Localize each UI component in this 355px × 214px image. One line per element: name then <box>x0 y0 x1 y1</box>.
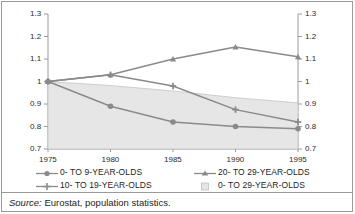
y-tick-right-5: 0.8 <box>305 122 316 131</box>
legend-item-10-to-19[interactable]: 10- TO 19-YEAR-OLDS <box>34 179 152 192</box>
legend-column-right: 20- TO 29-YEAR-OLDS 0- TO 29-YEAR-OLDS <box>192 166 310 192</box>
y-tick-left-4: 0.9 <box>30 99 41 108</box>
legend-marker-triangle-icon <box>192 166 218 179</box>
chart-legend: 0- TO 9-YEAR-OLDS 10- TO 19-YEAR-OLDS <box>6 166 348 192</box>
legend-marker-cross-icon <box>34 179 60 192</box>
source-note: Source: Eurostat, population statistics. <box>2 192 352 212</box>
legend-item-0-to-9[interactable]: 0- TO 9-YEAR-OLDS <box>34 166 152 179</box>
y-tick-right-4: 0.9 <box>305 99 316 108</box>
legend-label-0-to-9: 0- TO 9-YEAR-OLDS <box>60 166 142 179</box>
y-tick-left-1: 1.2 <box>30 32 41 41</box>
y-tick-right-2: 1.1 <box>305 54 316 63</box>
source-text-line: Source: Eurostat, population statistics. <box>9 197 171 208</box>
plot-area: 1.31.21.110.90.80.7 1.31.21.110.90.80.7 … <box>6 4 348 164</box>
y-tick-right-0: 1.3 <box>305 9 316 18</box>
y-tick-left-5: 0.8 <box>30 122 41 131</box>
x-tick-2: 1985 <box>164 155 182 164</box>
legend-item-0-to-29[interactable]: 0- TO 29-YEAR-OLDS <box>192 179 310 192</box>
y-tick-right-3: 1 <box>305 77 309 86</box>
x-tick-1: 1980 <box>102 155 120 164</box>
source-keyword: Source: <box>9 197 42 208</box>
legend-label-20-to-29: 20- TO 29-YEAR-OLDS <box>218 166 310 179</box>
y-tick-right-1: 1.2 <box>305 32 316 41</box>
x-tick-4: 1995 <box>289 155 307 164</box>
legend-item-20-to-29[interactable]: 20- TO 29-YEAR-OLDS <box>192 166 310 179</box>
y-tick-right-6: 0.7 <box>305 144 316 153</box>
legend-marker-circle-icon <box>34 166 60 179</box>
line-chart-svg <box>6 4 348 164</box>
legend-marker-area-swatch-icon <box>192 179 218 192</box>
y-tick-left-3: 1 <box>37 77 41 86</box>
chart-figure: 1.31.21.110.90.80.7 1.31.21.110.90.80.7 … <box>0 0 355 214</box>
x-tick-3: 1990 <box>227 155 245 164</box>
legend-label-0-to-29: 0- TO 29-YEAR-OLDS <box>218 179 305 192</box>
y-tick-left-0: 1.3 <box>30 9 41 18</box>
source-body: Eurostat, population statistics. <box>44 197 170 208</box>
y-tick-left-6: 0.7 <box>30 144 41 153</box>
y-tick-left-2: 1.1 <box>30 54 41 63</box>
legend-label-10-to-19: 10- TO 19-YEAR-OLDS <box>60 179 152 192</box>
legend-column-left: 0- TO 9-YEAR-OLDS 10- TO 19-YEAR-OLDS <box>34 166 152 192</box>
x-tick-0: 1975 <box>39 155 57 164</box>
